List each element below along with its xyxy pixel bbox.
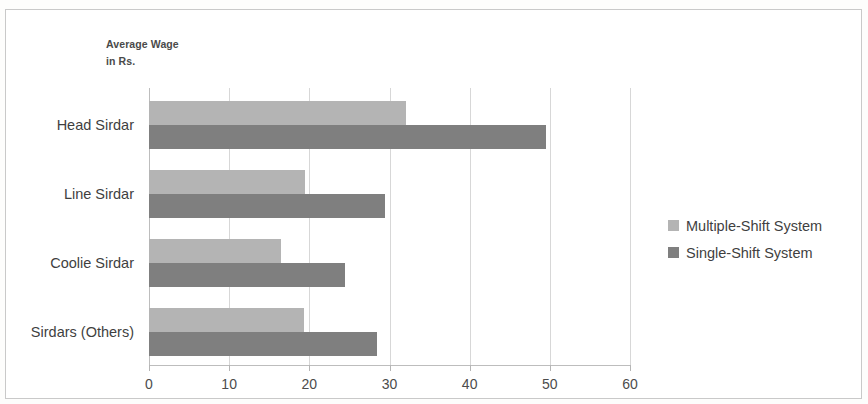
category-label: Head Sirdar [57, 117, 134, 133]
bar [149, 125, 546, 149]
axis-tick [309, 365, 310, 371]
legend-swatch-icon [668, 247, 679, 258]
legend-item: Single-Shift System [668, 239, 822, 266]
bar [149, 101, 406, 125]
chart-legend: Multiple-Shift SystemSingle-Shift System [668, 212, 822, 266]
axis-tick-label: 50 [542, 376, 558, 392]
gridline [630, 88, 631, 365]
axis-tick-label: 10 [221, 376, 237, 392]
bar [149, 332, 377, 356]
category-axis-labels: Head SirdarLine SirdarCoolie SirdarSirda… [0, 88, 140, 365]
category-label: Sirdars (Others) [31, 324, 134, 340]
axis-tick-label: 20 [302, 376, 318, 392]
legend-label: Single-Shift System [686, 245, 813, 261]
chart-screenshot: Average Wage in Rs. Head SirdarLine Sird… [0, 0, 868, 404]
axis-tick-label: 0 [145, 376, 153, 392]
axis-title-line-1: Average Wage [106, 36, 179, 53]
axis-tick-label: 60 [622, 376, 638, 392]
axis-tick [149, 365, 150, 371]
legend-swatch-icon [668, 220, 679, 231]
bar [149, 263, 345, 287]
axis-tick [550, 365, 551, 371]
bar [149, 308, 304, 332]
gridline [550, 88, 551, 365]
bar [149, 194, 385, 218]
category-label: Coolie Sirdar [50, 255, 134, 271]
legend-label: Multiple-Shift System [686, 218, 822, 234]
legend-item: Multiple-Shift System [668, 212, 822, 239]
axis-title-line-2: in Rs. [106, 53, 179, 70]
axis-tick-label: 40 [462, 376, 478, 392]
category-label: Line Sirdar [64, 186, 134, 202]
axis-tick [630, 365, 631, 371]
axis-title: Average Wage in Rs. [106, 36, 179, 70]
axis-tick [390, 365, 391, 371]
axis-tick [470, 365, 471, 371]
axis-tick-label: 30 [382, 376, 398, 392]
axis-tick [229, 365, 230, 371]
bar [149, 170, 305, 194]
bar [149, 239, 281, 263]
plot-area: 0102030405060 [149, 88, 630, 365]
